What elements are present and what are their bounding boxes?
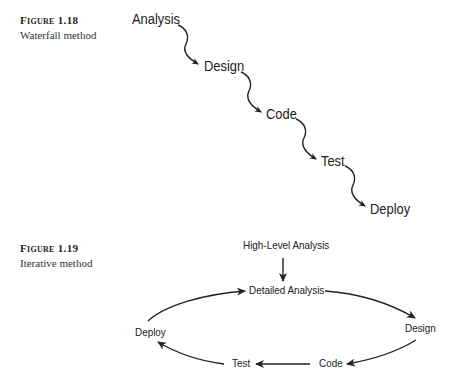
wavy-arrow-icon [241, 72, 261, 112]
diagram-arrows [0, 0, 454, 389]
wavy-arrow-icon [178, 25, 198, 64]
arrow-icon [148, 291, 245, 321]
wavy-arrow-icon [296, 119, 316, 159]
wavy-arrow-icon [345, 166, 365, 206]
arrow-icon [158, 342, 224, 364]
arrow-icon [325, 291, 415, 318]
arrow-icon [347, 340, 416, 364]
